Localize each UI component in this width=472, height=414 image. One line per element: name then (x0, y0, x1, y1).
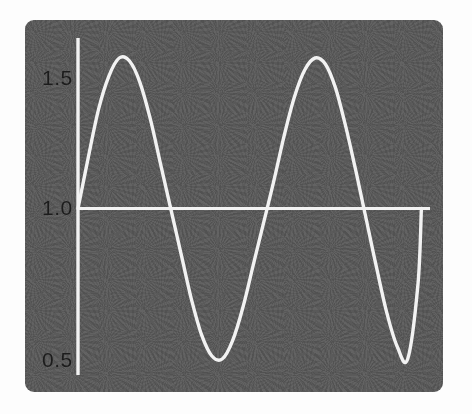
plot-graphics (25, 20, 443, 392)
y-tick-label-1.0: 1.0 (42, 197, 73, 218)
y-tick-label-0.5: 0.5 (42, 349, 73, 370)
figure-canvas: 1.5 1.0 0.5 (0, 0, 472, 414)
plot-panel: 1.5 1.0 0.5 (25, 20, 443, 392)
y-tick-label-1.5: 1.5 (42, 67, 73, 88)
